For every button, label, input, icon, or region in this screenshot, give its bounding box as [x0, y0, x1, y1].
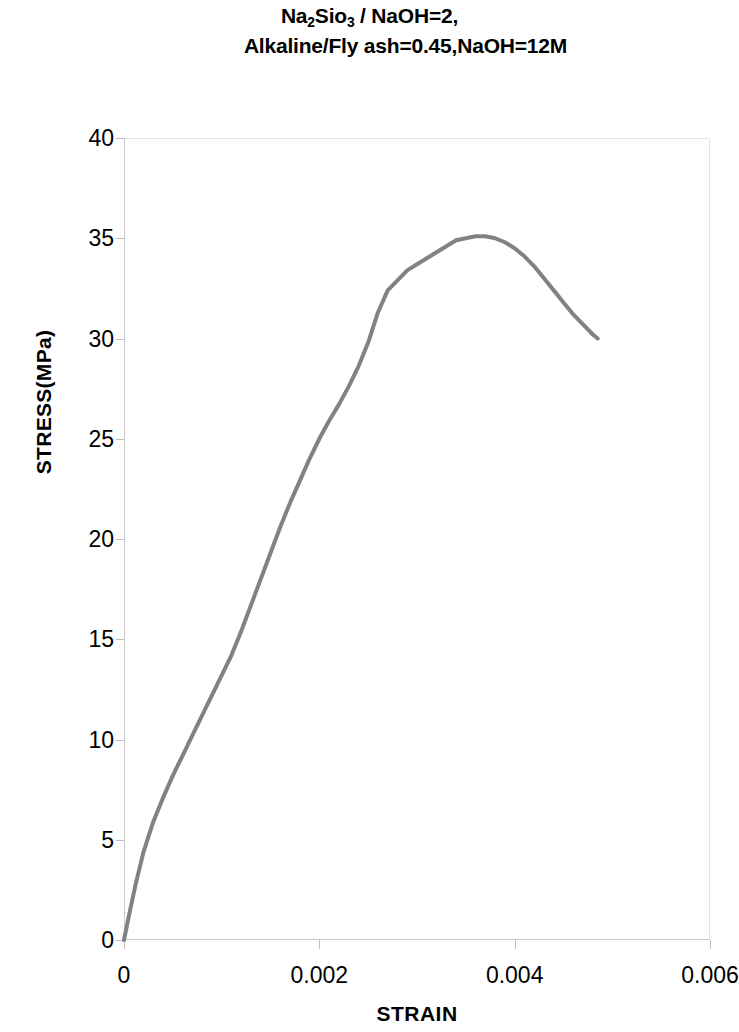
title-subscript-3: 3 [347, 14, 355, 30]
y-tick-mark [116, 639, 124, 640]
y-tick-label: 5 [101, 826, 114, 853]
y-tick-label: 20 [88, 526, 114, 553]
x-tick-label: 0.004 [486, 962, 544, 989]
y-tick-label: 30 [88, 325, 114, 352]
title-naoh-ratio: / NaOH=2, [354, 4, 458, 27]
y-tick-label: 40 [88, 125, 114, 152]
y-axis-title: STRESS(MPa) [32, 302, 56, 502]
y-tick-mark [116, 138, 124, 139]
y-tick-label: 25 [88, 425, 114, 452]
y-tick-mark [116, 439, 124, 440]
chart-title: Na2Sio3 / NaOH=2, Alkaline/Fly ash=0.45,… [0, 2, 739, 60]
y-tick-mark [116, 339, 124, 340]
y-tick-mark [116, 238, 124, 239]
title-sio: Sio [315, 4, 347, 27]
y-tick-label: 15 [88, 626, 114, 653]
y-tick-mark [116, 840, 124, 841]
chart-title-line-2: Alkaline/Fly ash=0.45,NaOH=12M [36, 32, 739, 60]
y-tick-label: 35 [88, 225, 114, 252]
title-na-prefix: Na [281, 4, 307, 27]
x-tick-mark [710, 940, 711, 949]
x-tick-label: 0.002 [291, 962, 349, 989]
curve-polyline [124, 236, 598, 940]
plot-area: 0510152025303540 00.0020.0040.006 [124, 138, 710, 940]
title-subscript-2: 2 [307, 14, 315, 30]
x-axis-title: STRAIN [124, 1002, 710, 1026]
y-tick-label: 0 [101, 927, 114, 954]
chart-title-line-1: Na2Sio3 / NaOH=2, [0, 2, 739, 32]
y-tick-mark [116, 740, 124, 741]
y-tick-mark [116, 539, 124, 540]
x-tick-mark [319, 940, 320, 949]
x-tick-label: 0.006 [681, 962, 739, 989]
x-tick-label: 0 [118, 962, 131, 989]
stress-strain-curve [124, 138, 710, 940]
x-tick-mark [515, 940, 516, 949]
y-tick-label: 10 [88, 726, 114, 753]
